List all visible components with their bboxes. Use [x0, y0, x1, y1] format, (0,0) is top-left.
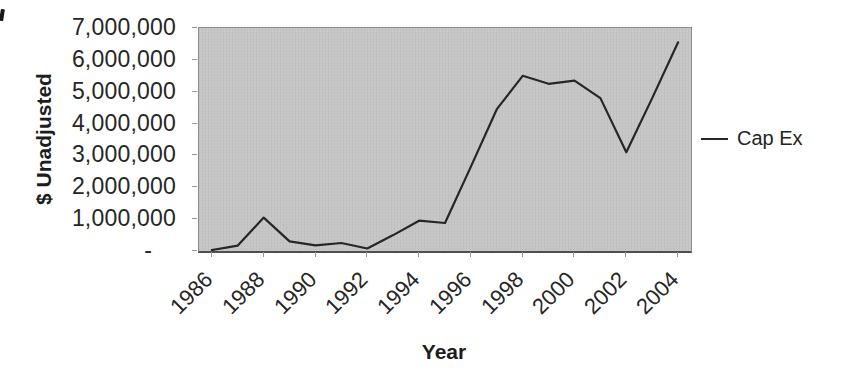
- x-tick-label: 1986: [158, 268, 217, 327]
- y-tick-label: -: [56, 238, 176, 262]
- x-tick-mark: [263, 252, 264, 257]
- y-tick-mark: [192, 250, 197, 251]
- scan-artifact-mark: [0, 9, 5, 21]
- x-tick-label: 1994: [365, 268, 424, 327]
- x-tick-label: 2000: [521, 268, 580, 327]
- x-tick-label: 1992: [313, 268, 372, 327]
- y-tick-label: 6,000,000: [56, 47, 176, 71]
- x-tick-label: 1988: [210, 268, 269, 327]
- plot-area: [198, 27, 692, 253]
- y-tick-label: 3,000,000: [56, 142, 176, 166]
- y-tick-mark: [192, 218, 197, 219]
- x-tick-mark: [418, 252, 419, 257]
- series-canvas: [199, 28, 691, 251]
- x-tick-mark: [677, 252, 678, 257]
- x-tick-label: 1996: [417, 268, 476, 327]
- y-axis-title: $ Unadjusted: [32, 73, 56, 205]
- x-tick-mark: [315, 252, 316, 257]
- x-tick-mark: [625, 252, 626, 257]
- x-tick-mark: [573, 252, 574, 257]
- y-tick-mark: [192, 154, 197, 155]
- x-tick-label: 1990: [262, 268, 321, 327]
- capex-line-chart: $ Unadjusted -1,000,0002,000,0003,000,00…: [0, 0, 846, 385]
- y-tick-mark: [192, 186, 197, 187]
- x-tick-label: 2004: [624, 268, 683, 327]
- capex-series-line: [212, 42, 678, 250]
- y-tick-label: 5,000,000: [56, 79, 176, 103]
- x-tick-label: 2002: [572, 268, 631, 327]
- y-tick-label: 2,000,000: [56, 174, 176, 198]
- x-tick-mark: [522, 252, 523, 257]
- x-tick-label: 1998: [469, 268, 528, 327]
- y-tick-label: 4,000,000: [56, 111, 176, 135]
- y-tick-label: 7,000,000: [56, 15, 176, 39]
- x-axis-title: Year: [422, 340, 466, 364]
- y-tick-mark: [192, 123, 197, 124]
- y-tick-label: 1,000,000: [56, 206, 176, 230]
- x-tick-mark: [211, 252, 212, 257]
- legend-line-sample-icon: [701, 138, 728, 140]
- x-tick-mark: [366, 252, 367, 257]
- legend: Cap Ex: [701, 127, 803, 150]
- y-tick-mark: [192, 59, 197, 60]
- legend-series-label: Cap Ex: [737, 127, 803, 150]
- y-tick-mark: [192, 91, 197, 92]
- x-tick-mark: [470, 252, 471, 257]
- y-tick-mark: [192, 27, 197, 28]
